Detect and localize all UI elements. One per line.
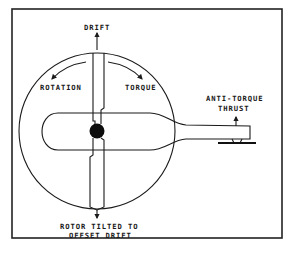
rotation-label: ROTATION [40, 83, 82, 92]
drift-label: DRIFT [84, 23, 110, 32]
thrust-label: THRUST [218, 104, 249, 113]
offset-drift-label: OFFSET DRIFT [69, 231, 132, 240]
anti-torque-label: ANTI-TORQUE [206, 94, 264, 103]
torque-label: TORQUE [125, 83, 156, 92]
rotor-drift-diagram: DRIFT ROTATION TORQUE ANTI-TORQUE THRUST… [0, 0, 297, 258]
fuselage [42, 113, 250, 150]
rotor-hub [90, 124, 105, 139]
main-rotor-blade [90, 138, 104, 210]
frame [12, 9, 282, 238]
main-rotor-blade [93, 53, 95, 128]
rotor-tilted-label: ROTOR TILTED TO [60, 222, 138, 231]
